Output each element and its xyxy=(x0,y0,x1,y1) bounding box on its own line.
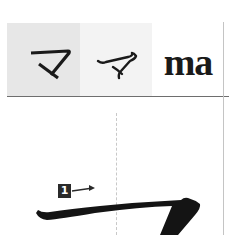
brush-stroke-1 xyxy=(36,198,200,235)
arrow-right-icon xyxy=(72,185,95,191)
stroke-diagram xyxy=(0,0,229,235)
